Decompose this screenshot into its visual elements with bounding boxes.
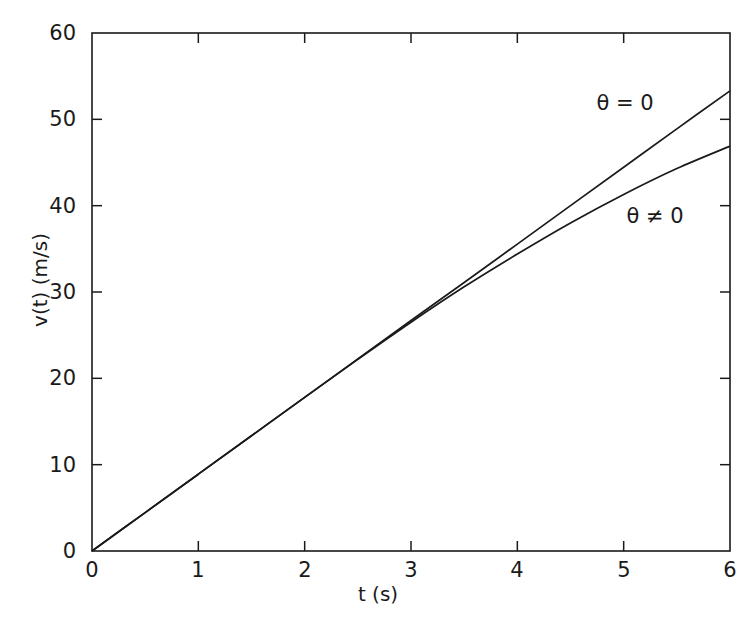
xtick-label-5: 5 [617,558,630,582]
ytick-label-50: 50 [20,107,76,131]
x-axis-title: t (s) [0,582,756,606]
xtick-label-1: 1 [191,558,204,582]
x-axis-ticks-top [198,33,623,43]
xtick-label-4: 4 [510,558,523,582]
xtick-label-0: 0 [85,558,98,582]
y-axis-ticks-right [720,119,730,464]
y-axis-ticks [92,119,102,464]
xtick-label-2: 2 [298,558,311,582]
ytick-label-0: 0 [20,539,76,563]
y-axis-title: v(t) (m/s) [28,180,52,380]
ytick-label-60: 60 [20,21,76,45]
figure-container: 60 50 40 30 20 10 0 0 1 2 3 4 5 6 t (s) … [0,0,756,633]
annotation-theta-nonzero: θ ≠ 0 [626,204,683,228]
xtick-label-3: 3 [404,558,417,582]
ytick-label-10: 10 [20,453,76,477]
xtick-label-6: 6 [723,558,736,582]
x-axis-ticks [198,541,623,551]
annotation-theta-zero: θ = 0 [596,91,653,115]
